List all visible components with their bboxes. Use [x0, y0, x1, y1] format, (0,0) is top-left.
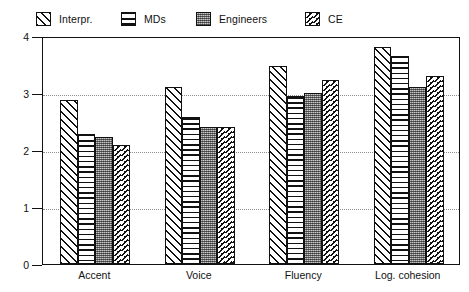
y-axis-tick — [32, 151, 42, 152]
bar-log-cohesion-interpr- — [374, 47, 392, 264]
legend-item-engineers: Engineers — [196, 8, 267, 30]
bar-voice-engineers — [200, 127, 218, 264]
legend-item-ce: CE — [305, 8, 343, 30]
legend-label-engineers: Engineers — [219, 14, 267, 25]
bar-fluency-ce — [322, 80, 340, 264]
bar-accent-mds — [78, 134, 96, 264]
bar-voice-mds — [182, 117, 200, 264]
y-axis-tick-label: 3 — [0, 89, 29, 100]
legend-label-ce: CE — [328, 14, 343, 25]
bar-voice-interpr- — [165, 87, 183, 264]
y-axis-tick — [32, 94, 42, 95]
legend-label-interpr: Interpr. — [59, 14, 92, 25]
y-axis-tick-label: 1 — [0, 203, 29, 214]
y-axis-tick-label: 0 — [0, 260, 29, 271]
bar-fluency-engineers — [304, 93, 322, 264]
y-axis-tick — [32, 208, 42, 209]
legend-label-mds: MDs — [144, 14, 166, 25]
bar-accent-engineers — [95, 137, 113, 264]
plot-area — [42, 37, 460, 265]
horizontal-lines-swatch-icon — [121, 12, 136, 26]
chart-legend: Interpr. MDs Engineers CE — [0, 8, 469, 30]
diagonal-hatch-swatch-icon — [36, 12, 51, 26]
x-axis-label-log-cohesion: Log. cohesion — [375, 270, 440, 281]
bar-accent-ce — [113, 145, 131, 264]
x-axis-label-voice: Voice — [186, 270, 212, 281]
bar-fluency-mds — [287, 96, 305, 264]
x-axis-label-fluency: Fluency — [285, 270, 322, 281]
y-axis-tick — [32, 265, 42, 266]
sparse-dash-swatch-icon — [305, 12, 320, 26]
y-axis-tick — [32, 37, 42, 38]
x-axis-label-accent: Accent — [78, 270, 110, 281]
dense-dots-swatch-icon — [196, 12, 211, 26]
grouped-bar-chart: Interpr. MDs Engineers CE 01234 AccentVo… — [0, 0, 469, 292]
bar-log-cohesion-mds — [391, 56, 409, 264]
bar-fluency-interpr- — [269, 66, 287, 264]
y-axis-tick-label: 4 — [0, 32, 29, 43]
bar-accent-interpr- — [60, 100, 78, 264]
bar-voice-ce — [217, 127, 235, 264]
legend-item-mds: MDs — [121, 8, 166, 30]
bar-log-cohesion-engineers — [409, 87, 427, 264]
y-axis-tick-label: 2 — [0, 146, 29, 157]
legend-item-interpr: Interpr. — [36, 8, 92, 30]
bar-log-cohesion-ce — [426, 76, 444, 264]
